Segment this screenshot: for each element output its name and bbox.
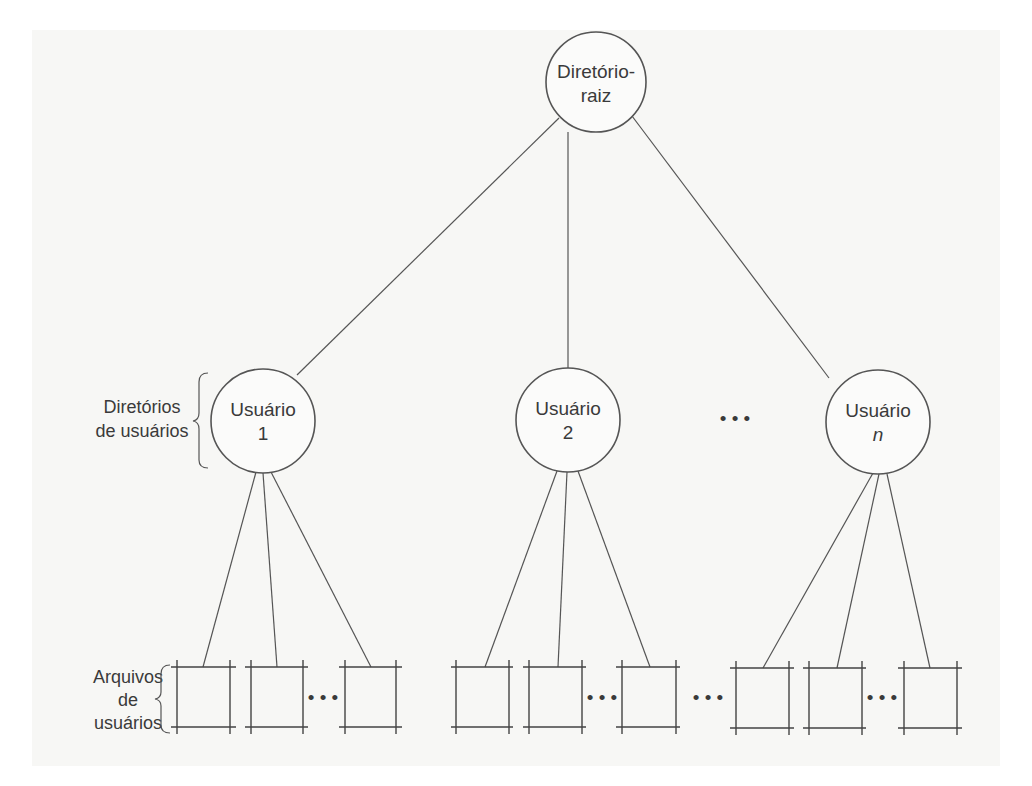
edge-usern-file3 bbox=[887, 474, 930, 668]
file-ellipsis: • • • bbox=[867, 687, 898, 708]
edge-user2-file2 bbox=[558, 472, 567, 667]
file-box[interactable] bbox=[245, 660, 308, 734]
file-group-usern: • • • bbox=[730, 661, 962, 735]
file-group-user2: • • • bbox=[451, 660, 680, 734]
edge-user1-file1 bbox=[203, 472, 256, 667]
edge-user2-file3 bbox=[578, 471, 650, 667]
user1-label-line2: 1 bbox=[258, 423, 269, 444]
root-label-line1: Diretório- bbox=[557, 61, 635, 82]
brace-user-dirs bbox=[193, 373, 208, 468]
edge-user1-file3 bbox=[271, 472, 371, 667]
user-files-label-line3: usuários bbox=[94, 713, 162, 733]
edge-user1-file2 bbox=[263, 473, 277, 667]
root-label-line2: raiz bbox=[581, 85, 612, 106]
edge-root-usern bbox=[632, 116, 829, 378]
file-group-user1: • • • bbox=[171, 660, 402, 734]
file-ellipsis: • • • bbox=[587, 687, 618, 708]
file-box[interactable] bbox=[339, 660, 402, 734]
user2-label-line1: Usuário bbox=[535, 398, 600, 419]
file-box[interactable] bbox=[730, 661, 794, 735]
file-box[interactable] bbox=[523, 660, 586, 734]
file-box[interactable] bbox=[451, 660, 513, 734]
user-dirs-label-line1: Diretórios bbox=[103, 397, 180, 417]
tree-diagram: Diretório- raiz Usuário 1 Usuário 2 Usuá… bbox=[0, 0, 1032, 786]
user-files-label-line2: de bbox=[118, 690, 138, 710]
user-directory-node-n[interactable]: Usuário n bbox=[826, 370, 930, 474]
user-directory-node-2[interactable]: Usuário 2 bbox=[516, 368, 620, 472]
user-ellipsis: • • • bbox=[720, 408, 751, 429]
edge-root-user1 bbox=[297, 118, 559, 375]
group-ellipsis: • • • bbox=[693, 687, 724, 708]
usern-label-line1: Usuário bbox=[845, 400, 910, 421]
file-box[interactable] bbox=[171, 660, 236, 734]
file-box[interactable] bbox=[898, 661, 962, 735]
user-dirs-label-line2: de usuários bbox=[95, 421, 188, 441]
edge-user2-file1 bbox=[485, 471, 557, 667]
user1-label-line1: Usuário bbox=[230, 399, 295, 420]
file-box[interactable] bbox=[803, 661, 866, 735]
usern-label-line2: n bbox=[873, 424, 884, 445]
file-box[interactable] bbox=[616, 660, 680, 734]
edge-usern-file1 bbox=[763, 473, 873, 668]
user2-label-line2: 2 bbox=[563, 422, 574, 443]
user-files-label-line1: Arquivos bbox=[93, 667, 163, 687]
file-ellipsis: • • • bbox=[308, 687, 339, 708]
edge-usern-file2 bbox=[837, 474, 879, 668]
user-directory-node-1[interactable]: Usuário 1 bbox=[211, 369, 315, 473]
root-directory-node[interactable]: Diretório- raiz bbox=[546, 32, 646, 132]
